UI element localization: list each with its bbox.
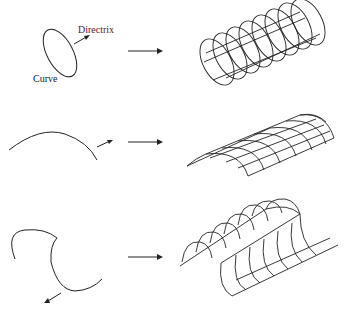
open-arc-curve [9, 132, 97, 160]
s-shaped-curve [12, 230, 102, 291]
row-1-arrow [128, 48, 163, 54]
directrix-label: Directrix [78, 24, 114, 35]
row-1-output-tube [193, 0, 332, 91]
row-3-arrow [128, 254, 163, 260]
row-1-input: Directrix Curve [33, 24, 114, 84]
row-3-input [12, 230, 102, 303]
extrusion-diagram: Directrix Curve [0, 0, 351, 312]
directrix-arrow [48, 293, 61, 301]
row-2-output-sheet [187, 114, 334, 176]
directrix-arrowhead [84, 35, 90, 40]
row-3-output-swall [180, 199, 338, 296]
curve-label: Curve [33, 73, 58, 84]
row-2-arrow [128, 139, 163, 145]
row-2-input [9, 132, 113, 160]
